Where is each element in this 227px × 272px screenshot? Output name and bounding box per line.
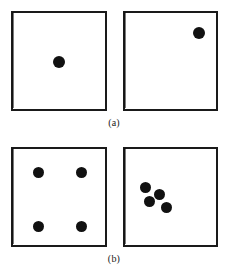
panel-b-right	[123, 147, 218, 247]
data-point	[53, 56, 65, 68]
data-point	[154, 189, 165, 200]
caption-b: (b)	[94, 253, 134, 265]
panel-a-left	[11, 11, 107, 111]
data-point	[33, 221, 44, 232]
data-point	[140, 182, 151, 193]
data-point	[193, 27, 205, 39]
data-point	[161, 202, 172, 213]
figure-root: (a) (b)	[0, 0, 227, 272]
data-point	[33, 167, 44, 178]
caption-a: (a)	[94, 117, 134, 129]
data-point	[144, 196, 155, 207]
panel-a-right	[123, 11, 218, 111]
data-point	[76, 221, 87, 232]
data-point	[76, 167, 87, 178]
panel-b-left	[11, 147, 107, 247]
